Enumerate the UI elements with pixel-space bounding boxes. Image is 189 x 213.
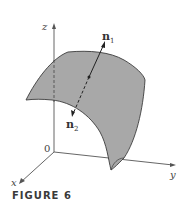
figure-diagram: z y x 0 n1 n2: [0, 0, 189, 213]
x-axis: [21, 152, 54, 182]
z-axis-arrow-icon: [52, 23, 56, 29]
n1-label: n1: [102, 30, 114, 45]
z-axis-label: z: [41, 21, 48, 32]
x-axis-label: x: [11, 177, 17, 188]
n2-label: n2: [66, 118, 78, 133]
y-axis-label: y: [169, 169, 176, 180]
figure-caption: FIGURE 6: [12, 190, 72, 201]
y-axis-arrow-icon: [170, 163, 176, 167]
surface-point: [88, 76, 91, 79]
origin-label: 0: [44, 143, 50, 154]
